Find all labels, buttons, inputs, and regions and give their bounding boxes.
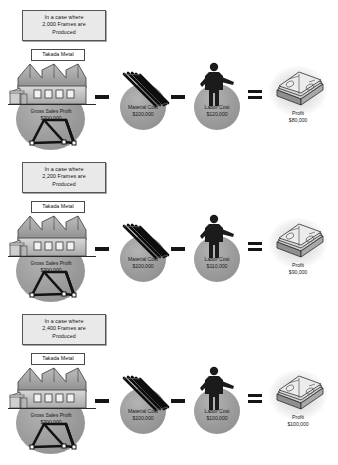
scenario-caption-box: In a case where 2,400 Frames are Produce… — [22, 314, 106, 345]
gross-sales-value: $300,000 — [10, 115, 92, 122]
profit-label: Profit — [265, 262, 331, 269]
money-stack-icon — [265, 366, 331, 442]
minus-operator-2 — [171, 95, 185, 99]
gross-sales-value: $300,000 — [10, 419, 92, 426]
labor-cost-node: Labor Cost $100,000 — [189, 364, 245, 442]
labor-cost-value: $110,000 — [189, 263, 245, 270]
gross-sales-label-group: Gross Sales Profit $300,000 — [10, 260, 92, 274]
money-stack-icon — [265, 62, 331, 138]
minus-operator-2 — [171, 247, 185, 251]
minus-operator-1 — [95, 95, 109, 99]
material-cost-label-group: Material Cost $100,000 — [116, 408, 170, 422]
profit-label: Profit — [265, 414, 331, 421]
labor-cost-value: $100,000 — [189, 415, 245, 422]
steel-tubes-icon — [116, 66, 170, 138]
scenario-panel: In a case where 2,200 Frames are Produce… — [0, 152, 338, 304]
caption-line-2: 2,000 Frames are — [25, 21, 103, 28]
material-cost-node: Material Cost $100,000 — [116, 66, 170, 138]
gross-sales-profit-node: Gross Sales Profit $300,000 — [8, 58, 94, 148]
profit-value: $80,000 — [265, 117, 331, 124]
profit-label-group: Profit $90,000 — [265, 262, 331, 276]
gross-sales-profit-node: Gross Sales Profit $300,000 — [8, 210, 94, 300]
caption-line-2: 2,200 Frames are — [25, 173, 103, 180]
profit-node: Profit $90,000 — [265, 214, 331, 290]
gross-sales-value: $300,000 — [10, 267, 92, 274]
profit-label-group: Profit $80,000 — [265, 110, 331, 124]
company-sign: Takada Metal — [31, 353, 85, 365]
factory-icon — [8, 58, 94, 148]
steel-tubes-icon — [116, 218, 170, 290]
gross-sales-profit-node: Gross Sales Profit $300,000 — [8, 362, 94, 452]
equals-operator — [248, 242, 262, 252]
caption-line-3: Produced — [25, 333, 103, 340]
worker-silhouette-icon — [189, 212, 245, 290]
material-cost-value: $100,000 — [116, 415, 170, 422]
gross-sales-label: Gross Sales Profit — [10, 412, 92, 419]
profit-node: Profit $80,000 — [265, 62, 331, 138]
labor-cost-label-group: Labor Cost $110,000 — [189, 256, 245, 270]
material-cost-label: Material Cost — [116, 104, 170, 111]
scenario-panel: In a case where 2,000 Frames are Produce… — [0, 0, 338, 152]
material-cost-value: $100,000 — [116, 111, 170, 118]
equals-operator — [248, 90, 262, 100]
labor-cost-value: $120,000 — [189, 111, 245, 118]
ground-line — [8, 256, 96, 257]
caption-line-1: In a case where — [25, 318, 103, 325]
money-stack-icon — [265, 214, 331, 290]
gross-sales-label: Gross Sales Profit — [10, 260, 92, 267]
caption-line-2: 2,400 Frames are — [25, 325, 103, 332]
labor-cost-label: Labor Cost — [189, 104, 245, 111]
ground-line — [8, 104, 96, 105]
material-cost-value: $100,000 — [116, 263, 170, 270]
caption-line-3: Produced — [25, 181, 103, 188]
material-cost-label: Material Cost — [116, 256, 170, 263]
scenario-panel: In a case where 2,400 Frames are Produce… — [0, 304, 338, 456]
labor-cost-label-group: Labor Cost $100,000 — [189, 408, 245, 422]
material-cost-node: Material Cost $100,000 — [116, 218, 170, 290]
labor-cost-node: Labor Cost $110,000 — [189, 212, 245, 290]
caption-line-3: Produced — [25, 29, 103, 36]
company-sign: Takada Metal — [31, 201, 85, 213]
minus-operator-1 — [95, 247, 109, 251]
caption-line-1: In a case where — [25, 166, 103, 173]
labor-cost-label: Labor Cost — [189, 408, 245, 415]
minus-operator-1 — [95, 399, 109, 403]
material-cost-label-group: Material Cost $100,000 — [116, 256, 170, 270]
material-cost-node: Material Cost $100,000 — [116, 370, 170, 442]
profit-node: Profit $100,000 — [265, 366, 331, 442]
worker-silhouette-icon — [189, 364, 245, 442]
minus-operator-2 — [171, 399, 185, 403]
profit-value: $100,000 — [265, 421, 331, 428]
labor-cost-label: Labor Cost — [189, 256, 245, 263]
steel-tubes-icon — [116, 370, 170, 442]
bicycle-frame-icon — [8, 210, 94, 300]
bicycle-frame-icon — [8, 362, 94, 452]
equals-operator — [248, 394, 262, 404]
material-cost-label-group: Material Cost $100,000 — [116, 104, 170, 118]
caption-line-1: In a case where — [25, 14, 103, 21]
gross-sales-label: Gross Sales Profit — [10, 108, 92, 115]
profit-label-group: Profit $100,000 — [265, 414, 331, 428]
ground-line — [8, 408, 96, 409]
scenario-caption-box: In a case where 2,000 Frames are Produce… — [22, 10, 106, 41]
scenario-caption-box: In a case where 2,200 Frames are Produce… — [22, 162, 106, 193]
gross-sales-label-group: Gross Sales Profit $300,000 — [10, 108, 92, 122]
company-sign: Takada Metal — [31, 49, 85, 61]
gross-sales-label-group: Gross Sales Profit $300,000 — [10, 412, 92, 426]
profit-value: $90,000 — [265, 269, 331, 276]
labor-cost-node: Labor Cost $120,000 — [189, 60, 245, 138]
material-cost-label: Material Cost — [116, 408, 170, 415]
labor-cost-label-group: Labor Cost $120,000 — [189, 104, 245, 118]
profit-scenarios-diagram: In a case where 2,000 Frames are Produce… — [0, 0, 338, 465]
worker-silhouette-icon — [189, 60, 245, 138]
profit-label: Profit — [265, 110, 331, 117]
